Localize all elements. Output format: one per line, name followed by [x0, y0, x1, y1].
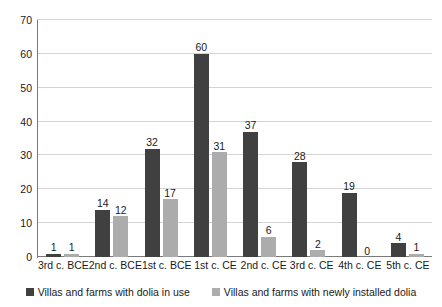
bar-fill — [163, 199, 178, 257]
bar-value-label: 19 — [343, 181, 355, 192]
x-tick-label: 3rd c. BCE — [38, 259, 89, 271]
x-tick-label: 1st c. BCE — [142, 259, 192, 271]
y-tick-label: 60 — [20, 48, 37, 60]
bar-fill — [409, 254, 424, 257]
legend-swatch-icon — [212, 288, 220, 296]
x-axis-ticks: 3rd c. BCE2nd c. BCE1st c. BCE1st c. CE2… — [38, 259, 432, 271]
x-tick-label: 2nd c. BCE — [89, 259, 142, 271]
bar-value-label: 1 — [69, 242, 75, 253]
y-tick-label: 10 — [20, 217, 37, 229]
x-tick-label: 4th c. CE — [336, 259, 384, 271]
bar-fill — [261, 237, 276, 257]
x-tick-label: 3rd c. CE — [288, 259, 336, 271]
legend-label: Villas and farms with newly installed do… — [224, 286, 416, 298]
bar-value-label: 60 — [196, 42, 208, 53]
bar-fill — [46, 254, 61, 257]
bar-group: 190 — [334, 20, 383, 257]
legend-item[interactable]: Villas and farms with dolia in use — [26, 286, 190, 298]
bar: 28 — [292, 162, 307, 257]
bar-group: 1412 — [87, 20, 136, 257]
bar-fill — [292, 162, 307, 257]
bar: 31 — [212, 152, 227, 257]
x-tick-label: 5th c. CE — [384, 259, 432, 271]
bar-fill — [342, 193, 357, 257]
bar-value-label: 17 — [164, 188, 176, 199]
bar-value-label: 32 — [146, 137, 158, 148]
x-tick-label: 2nd c. CE — [240, 259, 288, 271]
bar-fill — [95, 210, 110, 257]
bar: 32 — [145, 149, 160, 257]
bar-group: 3217 — [137, 20, 186, 257]
bar-value-label: 14 — [97, 198, 109, 209]
bar: 37 — [243, 132, 258, 257]
bar: 1 — [409, 254, 424, 257]
bar: 1 — [64, 254, 79, 257]
bar-value-label: 1 — [413, 242, 419, 253]
bar-value-label: 2 — [315, 239, 321, 250]
y-tick-label: 20 — [20, 183, 37, 195]
bar-group: 282 — [284, 20, 333, 257]
bar-group: 11 — [38, 20, 87, 257]
bar-chart: 010203040506070 111412321760313762821904… — [0, 0, 442, 307]
bar: 60 — [194, 54, 209, 257]
bar-value-label: 12 — [115, 205, 127, 216]
bar-value-label: 28 — [294, 151, 306, 162]
y-tick-label: 70 — [20, 14, 37, 26]
bar: 1 — [46, 254, 61, 257]
bar: 12 — [113, 216, 128, 257]
y-tick-label: 0 — [26, 251, 37, 263]
y-tick-label: 40 — [20, 116, 37, 128]
bar-fill — [64, 254, 79, 257]
bar-fill — [113, 216, 128, 257]
bar-group: 376 — [235, 20, 284, 257]
bar-group: 41 — [383, 20, 432, 257]
bar-value-label: 6 — [266, 225, 272, 236]
bars-layer: 1114123217603137628219041 — [38, 20, 432, 257]
bar-fill — [194, 54, 209, 257]
bar: 19 — [342, 193, 357, 257]
bar-value-label: 31 — [214, 141, 226, 152]
bar-value-label: 4 — [395, 232, 401, 243]
chart-legend: Villas and farms with dolia in useVillas… — [0, 286, 442, 298]
bar-fill — [145, 149, 160, 257]
legend-swatch-icon — [26, 288, 34, 296]
bar: 2 — [310, 250, 325, 257]
bar-group: 6031 — [186, 20, 235, 257]
bar-fill — [391, 243, 406, 257]
bar: 17 — [163, 199, 178, 257]
y-tick-label: 50 — [20, 82, 37, 94]
bar: 14 — [95, 210, 110, 257]
legend-label: Villas and farms with dolia in use — [38, 286, 190, 298]
bar-value-label: 0 — [364, 246, 370, 257]
legend-item[interactable]: Villas and farms with newly installed do… — [212, 286, 416, 298]
bar-fill — [212, 152, 227, 257]
x-tick-label: 1st c. CE — [192, 259, 240, 271]
y-tick-label: 30 — [20, 149, 37, 161]
bar: 4 — [391, 243, 406, 257]
bar-value-label: 1 — [51, 242, 57, 253]
bar: 6 — [261, 237, 276, 257]
bar-value-label: 37 — [245, 120, 257, 131]
bar-fill — [243, 132, 258, 257]
bar-fill — [310, 250, 325, 257]
